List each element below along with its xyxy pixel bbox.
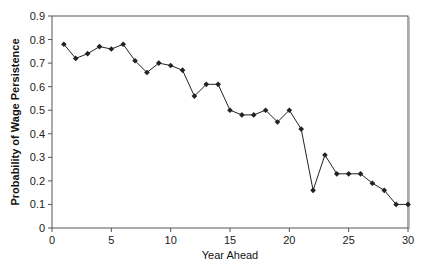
y-tick-label: 0.7	[30, 57, 45, 69]
data-point-marker	[180, 67, 186, 73]
data-point-marker	[405, 202, 411, 208]
x-tick-label: 0	[49, 234, 55, 246]
y-tick-label: 0	[39, 222, 45, 234]
x-tick-label: 5	[108, 234, 114, 246]
x-tick-label: 10	[165, 234, 177, 246]
data-point-marker	[215, 81, 221, 87]
data-point-marker	[251, 112, 257, 118]
y-tick-label: 0.8	[30, 34, 45, 46]
series-line	[64, 44, 408, 204]
data-point-marker	[346, 171, 352, 177]
data-point-marker	[334, 171, 340, 177]
y-axis-ticks: 00.10.20.30.40.50.60.70.80.9	[30, 10, 52, 234]
x-tick-label: 15	[224, 234, 236, 246]
line-chart: 00.10.20.30.40.50.60.70.80.9 05101520253…	[0, 0, 424, 269]
y-tick-label: 0.9	[30, 10, 45, 22]
x-axis-label: Year Ahead	[202, 249, 258, 261]
y-tick-label: 0.4	[30, 128, 45, 140]
y-tick-label: 0.6	[30, 81, 45, 93]
x-tick-label: 25	[343, 234, 355, 246]
data-point-marker	[322, 152, 328, 158]
data-point-marker	[97, 44, 103, 50]
y-tick-label: 0.1	[30, 198, 45, 210]
data-point-marker	[168, 63, 174, 69]
data-series	[61, 41, 411, 207]
y-tick-label: 0.2	[30, 175, 45, 187]
x-tick-label: 30	[402, 234, 414, 246]
data-point-marker	[227, 107, 233, 113]
data-point-marker	[239, 112, 245, 118]
data-point-marker	[85, 51, 91, 57]
y-axis-label: Probability of Wage Persistence	[9, 38, 21, 205]
y-tick-label: 0.5	[30, 104, 45, 116]
data-point-marker	[109, 46, 115, 52]
data-point-marker	[310, 187, 316, 193]
x-axis-ticks: 051015202530	[49, 228, 414, 246]
data-point-marker	[298, 126, 304, 132]
x-tick-label: 20	[283, 234, 295, 246]
y-tick-label: 0.3	[30, 151, 45, 163]
